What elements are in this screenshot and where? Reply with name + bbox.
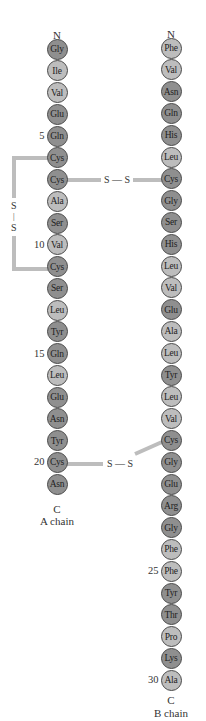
intrachain-sulfur-top: S [11,201,17,211]
residue-gly: Gly [47,39,68,60]
residue-gly: Gly [161,517,182,538]
a-chain-name: A chain [27,515,87,527]
residue-ser: Ser [161,212,182,233]
residue-asn: Asn [47,474,68,495]
residue-tyr: Tyr [47,430,68,451]
residue-asn: Asn [161,81,182,102]
residue-glu: Glu [161,474,182,495]
residue-leu: Leu [47,365,68,386]
residue-gln: Gln [47,126,68,147]
intrachain-sulfur-bottom: S [11,223,17,233]
residue-glu: Glu [161,299,182,320]
position-number: 5 [25,130,45,142]
interchain-bond-1-right [133,178,163,182]
residue-phe: Phe [161,561,182,582]
position-number: 30 [139,674,159,686]
residue-leu: Leu [161,386,182,407]
position-number: 10 [25,239,45,251]
residue-val: Val [161,59,182,80]
residue-ala: Ala [47,191,68,212]
residue-tyr: Tyr [47,321,68,342]
residue-glu: Glu [47,104,68,125]
intrachain-bond-arm-bottom [12,267,48,271]
residue-cys: Cys [47,147,68,168]
residue-ile: Ile [47,60,68,81]
residue-ala: Ala [161,670,182,691]
residue-gly: Gly [161,452,182,473]
residue-cys: Cys [47,169,68,190]
b-chain-c-terminus: C [165,694,177,706]
residue-tyr: Tyr [161,365,182,386]
position-number: 25 [139,565,159,577]
residue-asn: Asn [47,408,68,429]
residue-leu: Leu [161,343,182,364]
interchain-bond-1-label: S — S [104,175,130,185]
residue-lys: Lys [161,648,182,669]
residue-tyr: Tyr [161,583,182,604]
intrachain-bond-arm-top [12,156,48,160]
interchain-bond-2-left [67,462,103,466]
interchain-bond-2-label: S — S [107,459,133,469]
residue-his: His [161,234,182,255]
residue-leu: Leu [47,300,68,321]
residue-val: Val [47,82,68,103]
residue-phe: Phe [161,38,182,59]
residue-cys: Cys [47,452,68,473]
residue-gln: Gln [47,343,68,364]
intrachain-bond-line-top [12,156,16,198]
residue-leu: Leu [161,147,182,168]
residue-his: His [161,125,182,146]
residue-val: Val [161,277,182,298]
residue-gln: Gln [161,103,182,124]
residue-leu: Leu [161,256,182,277]
residue-ser: Ser [47,213,68,234]
residue-val: Val [47,234,68,255]
a-chain-c-terminus: C [51,503,63,515]
residue-arg: Arg [161,495,182,516]
residue-cys: Cys [161,168,182,189]
position-number: 20 [25,456,45,468]
b-chain-name: B chain [141,707,201,719]
interchain-bond-1-left [67,178,101,182]
position-number: 15 [25,348,45,360]
residue-pro: Pro [161,626,182,647]
residue-ser: Ser [47,278,68,299]
residue-cys: Cys [161,430,182,451]
intrachain-bond-dash: | [13,212,15,222]
residue-glu: Glu [47,387,68,408]
residue-cys: Cys [47,256,68,277]
residue-thr: Thr [161,604,182,625]
residue-ala: Ala [161,321,182,342]
residue-val: Val [161,408,182,429]
residue-gly: Gly [161,190,182,211]
residue-phe: Phe [161,539,182,560]
intrachain-bond-line-bottom [12,236,16,271]
